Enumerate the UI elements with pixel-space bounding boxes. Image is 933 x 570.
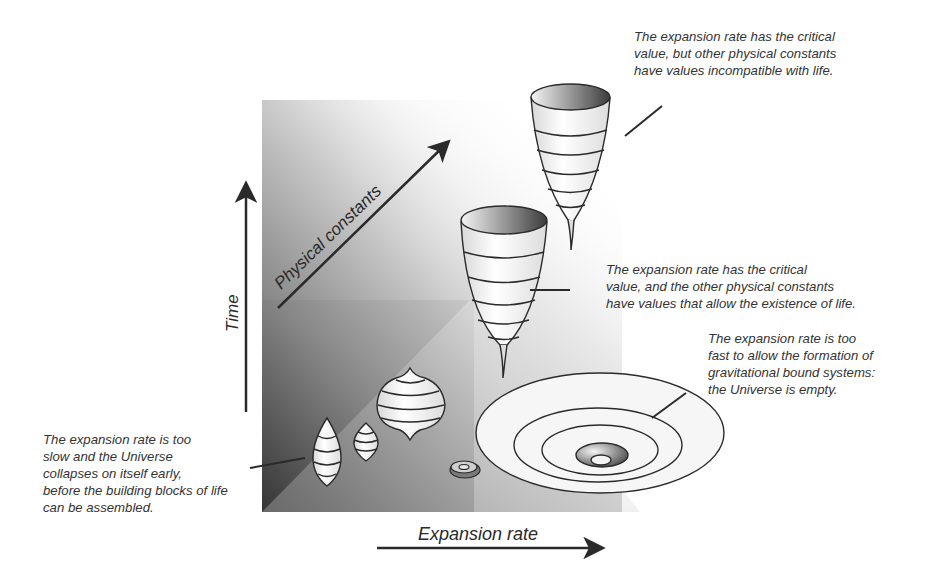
caption-too-slow: The expansion rate is too slow and the U… <box>43 431 228 516</box>
concentric-disk-too-fast <box>476 373 724 493</box>
caption-critical-life: The expansion rate has the critical valu… <box>606 261 856 312</box>
caption-too-fast: The expansion rate is too fast to allow … <box>708 330 875 398</box>
small-disk <box>450 461 480 478</box>
expansion-rate-axis: Expansion rate <box>377 524 602 548</box>
time-axis-label: Time <box>223 294 242 332</box>
expansion-rate-label: Expansion rate <box>418 524 538 544</box>
caption-critical-incompatible: The expansion rate has the critical valu… <box>634 28 836 79</box>
time-axis: Time <box>223 184 246 412</box>
